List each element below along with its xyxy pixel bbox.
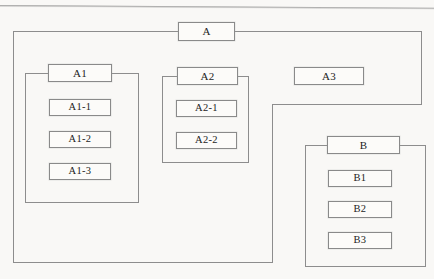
group-a1-left-edge (25, 73, 26, 203)
group-a-left-edge (13, 31, 14, 263)
node-a2-2[interactable]: A2-2 (176, 132, 237, 149)
group-a-right-edge-upper (421, 31, 422, 104)
group-b-right-edge (425, 145, 426, 266)
node-b2[interactable]: B2 (328, 201, 392, 218)
node-a3[interactable]: A3 (294, 67, 364, 85)
node-b1[interactable]: B1 (328, 170, 392, 187)
hierarchy-diagram: A A1 A1-1 A1-2 A1-3 A2 A2-1 A2-2 A3 B B1… (0, 0, 434, 279)
group-a-notch-edge (272, 104, 422, 105)
group-a2-right-edge (248, 76, 249, 162)
node-a1-2[interactable]: A1-2 (49, 131, 111, 148)
node-a2[interactable]: A2 (177, 67, 238, 85)
scan-page-edge (0, 5, 434, 10)
group-a2-left-edge (162, 76, 163, 162)
node-a1[interactable]: A1 (48, 64, 112, 82)
node-a1-3[interactable]: A1-3 (49, 163, 111, 180)
group-a2-bottom-edge (162, 162, 249, 163)
group-a-right-edge-lower (272, 104, 273, 263)
group-a1-bottom-edge (25, 202, 139, 203)
node-b3[interactable]: B3 (328, 232, 392, 249)
node-a[interactable]: A (178, 22, 235, 41)
group-b-top-edge-left (305, 145, 328, 146)
node-a2-1[interactable]: A2-1 (176, 100, 237, 117)
group-b-bottom-edge (305, 266, 426, 267)
group-a1-right-edge (138, 73, 139, 203)
group-a-top-edge-left (13, 31, 178, 32)
group-a1-top-edge-right (112, 73, 139, 74)
group-a-bottom-edge (13, 262, 273, 263)
node-a1-1[interactable]: A1-1 (49, 99, 111, 116)
group-a1-top-edge-left (25, 73, 49, 74)
group-a2-top-edge-left (162, 76, 178, 77)
group-b-left-edge (305, 145, 306, 266)
group-b-top-edge-right (400, 145, 425, 146)
node-b[interactable]: B (327, 136, 400, 154)
group-a-top-edge-right (235, 31, 422, 32)
